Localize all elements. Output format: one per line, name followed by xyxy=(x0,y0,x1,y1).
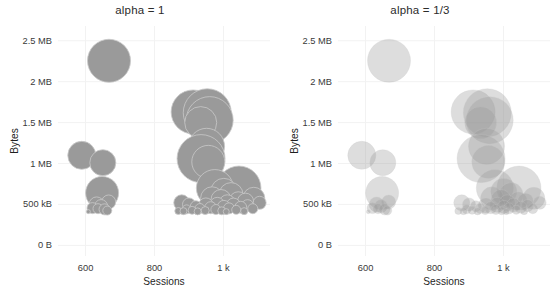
bubbles-left xyxy=(68,39,266,215)
y-tick-label: 1 MB xyxy=(310,159,332,169)
bubble-point xyxy=(383,206,392,215)
x-axis-title-right: Sessions xyxy=(338,276,550,287)
y-axis-title-right: Bytes xyxy=(289,128,300,153)
y-axis-title-left: Bytes xyxy=(9,128,20,153)
bubble-point xyxy=(366,210,370,214)
y-tick-label: 2.5 MB xyxy=(23,36,52,46)
plot-area-right: 0 B500 kB1 MB1.5 MB2 MB2.5 MB 6008001 k xyxy=(338,26,550,256)
panel-title-right: alpha = 1/3 xyxy=(280,4,560,16)
bubble-point xyxy=(223,209,229,215)
y-tick-label: 2.5 MB xyxy=(303,36,332,46)
bubble-point xyxy=(521,208,528,215)
bubble-point xyxy=(481,207,489,215)
y-tick-label: 2 MB xyxy=(310,77,332,87)
bubble-point xyxy=(241,208,248,215)
bubble-point xyxy=(103,206,112,215)
y-tick-label: 500 kB xyxy=(303,199,332,209)
y-tick-label: 2 MB xyxy=(30,77,52,87)
bubble-point xyxy=(232,205,241,214)
y-tick-label: 0 B xyxy=(318,240,332,250)
bubble-point xyxy=(86,210,90,214)
bubble-point xyxy=(201,207,209,215)
y-tick-label: 1.5 MB xyxy=(303,118,332,128)
bubble-point xyxy=(248,204,258,214)
plot-area-left: 0 B500 kB1 MB1.5 MB2 MB2.5 MB 6008001 k xyxy=(58,26,270,256)
x-axis-title-left: Sessions xyxy=(58,276,270,287)
plot-canvas-left xyxy=(58,26,270,256)
bubble-point xyxy=(194,208,201,215)
x-tick-label: 800 xyxy=(147,263,163,273)
bubble-point xyxy=(474,208,481,215)
bubble-point xyxy=(503,209,509,215)
bubble-point xyxy=(528,204,538,214)
y-tick-label: 0 B xyxy=(38,240,52,250)
x-tick-label: 600 xyxy=(358,263,374,273)
figure-root: alpha = 1 0 B500 kB1 MB1.5 MB2 MB2.5 MB … xyxy=(0,0,560,302)
panel-title-left: alpha = 1 xyxy=(0,4,280,16)
x-tick-label: 1 k xyxy=(497,263,509,273)
y-tick-label: 500 kB xyxy=(23,199,52,209)
bubble-point xyxy=(368,39,411,82)
y-tick-label: 1.5 MB xyxy=(23,118,52,128)
plot-canvas-right xyxy=(338,26,550,256)
bubble-point xyxy=(512,205,521,214)
y-tick-label: 1 MB xyxy=(30,159,52,169)
bubble-point xyxy=(88,39,131,82)
panel-alpha-one-third: alpha = 1/3 0 B500 kB1 MB1.5 MB2 MB2.5 M… xyxy=(280,0,560,302)
x-tick-label: 800 xyxy=(427,263,443,273)
bubbles-right xyxy=(348,39,546,215)
bubble-point xyxy=(370,150,396,176)
bubble-point xyxy=(460,208,467,215)
panel-alpha-1: alpha = 1 0 B500 kB1 MB1.5 MB2 MB2.5 MB … xyxy=(0,0,280,302)
x-tick-label: 1 k xyxy=(217,263,229,273)
x-tick-label: 600 xyxy=(78,263,94,273)
bubble-point xyxy=(90,150,116,176)
bubble-point xyxy=(180,208,187,215)
